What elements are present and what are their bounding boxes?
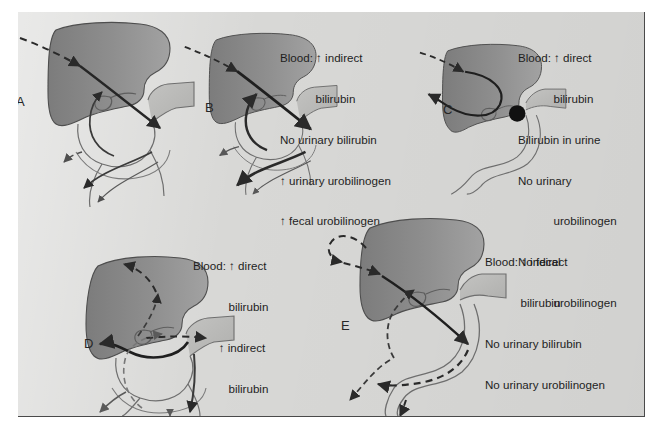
duodenum-outline <box>116 356 193 401</box>
panel-b-note-line: bilirubin <box>280 92 391 106</box>
panel-b-note-line: ↑ urinary urobilinogen <box>280 174 391 188</box>
panel-d: D Blood: ↑ direct bilirubin ↑ indirect b… <box>38 212 338 416</box>
panel-e-note-line: No urinary urobilinogen <box>485 378 605 392</box>
panel-d-note-line: ↑ indirect <box>193 341 304 355</box>
panel-d-note: Blood: ↑ direct bilirubin ↑ indirect bil… <box>193 232 304 417</box>
blood-recirculation-arrow <box>329 236 366 262</box>
duodenum-outline <box>78 122 155 167</box>
panel-c-note-line: Blood: ↑ direct <box>518 51 617 65</box>
panel-c-note-line: bilirubin <box>518 92 617 106</box>
intestine-outline-2 <box>397 304 479 416</box>
panel-b-note-line: Blood: ↑ indirect <box>280 51 391 65</box>
panel-d-note-line: bilirubin <box>193 382 304 396</box>
lower-dashed-outflow-arrow <box>350 360 390 400</box>
intestine-loop-1 <box>122 398 140 416</box>
panel-c-label: C <box>443 102 453 117</box>
fecal-arrow-2 <box>98 162 158 202</box>
panel-a-label: A <box>18 94 25 109</box>
urinary-urobilinogen-arrow <box>100 392 126 412</box>
panel-d-note-line: bilirubin <box>193 300 304 314</box>
panel-e-note-line: No urinary bilirubin <box>485 337 605 351</box>
panel-d-note-line: Blood: ↑ direct <box>193 259 304 273</box>
panel-c-note-line: No urinary <box>518 174 617 188</box>
panel-b-label: B <box>205 100 214 115</box>
panel-e: E Blood: ↑ indirect bilirubin No urinary… <box>308 208 644 416</box>
intestine-outline-1 <box>385 304 464 416</box>
panel-d-label: D <box>84 336 94 351</box>
panel-e-illustration <box>308 208 508 416</box>
panel-e-label: E <box>341 318 350 333</box>
figure-plate: A <box>18 12 645 417</box>
panel-c: C Blood: ↑ direct bilirubin Bilirubin in… <box>413 12 644 207</box>
panel-b: B Blood: ↑ indirect bilirubin No urinary… <box>183 12 433 207</box>
panel-e-note-line: Blood: ↑ indirect <box>485 255 605 269</box>
panel-e-note: Blood: ↑ indirect bilirubin No urinary b… <box>485 228 605 417</box>
panel-b-note-line: No urinary bilirubin <box>280 133 391 147</box>
panel-c-note-line: Bilirubin in urine <box>518 133 617 147</box>
panel-e-note-line: bilirubin <box>485 296 605 310</box>
figure-canvas: A <box>0 0 658 432</box>
